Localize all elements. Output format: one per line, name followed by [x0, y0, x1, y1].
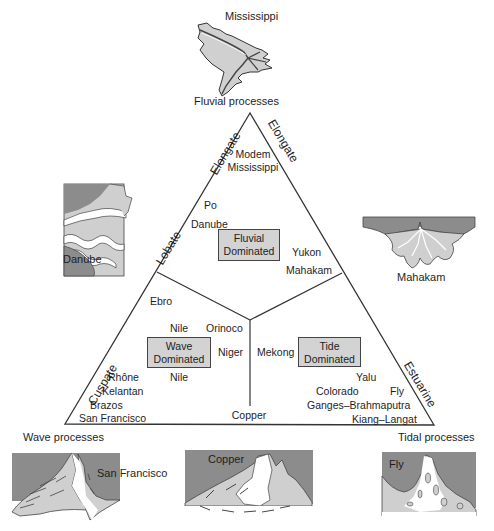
delta-label-modem: Modem — [235, 148, 270, 160]
map-label-mississippi: Mississippi — [225, 10, 278, 22]
delta-label-mahakam: Mahakam — [286, 264, 332, 276]
delta-label-yukon: Yukon — [292, 246, 321, 258]
region-label-fluvial-line2: Dominated — [219, 245, 279, 258]
region-label-tide-line2: Dominated — [299, 353, 360, 366]
delta-label-orinoco: Orinoco — [206, 322, 243, 334]
delta-label-san-francisco: San Francisco — [79, 412, 146, 424]
delta-label-mississippi: Mississippi — [228, 161, 279, 173]
mahakam-delta-map — [363, 217, 475, 268]
ternary-triangle — [0, 0, 494, 531]
delta-label-po: Po — [204, 199, 217, 211]
mississippi-delta-map — [198, 23, 272, 96]
delta-label-yalu: Yalu — [356, 371, 376, 383]
delta-label-fly: Fly — [390, 385, 404, 397]
delta-label-colorado: Colorado — [316, 385, 359, 397]
vertex-label-fluvial: Fluvial processes — [194, 95, 279, 107]
delta-label-ebro: Ebro — [150, 295, 172, 307]
delta-label-kiang-langat: Kiang–Langat — [352, 413, 417, 425]
delta-label-rhone: Rhône — [108, 371, 139, 383]
region-box-wave-dominated: Wave Dominated — [147, 337, 211, 368]
delta-label-danube: Danube — [191, 218, 228, 230]
region-box-tide-dominated: Tide Dominated — [298, 337, 361, 367]
copper-delta-map — [185, 450, 313, 520]
map-label-danube: Danube — [63, 253, 102, 265]
delta-label-copper: Copper — [232, 409, 266, 421]
delta-classification-diagram: Mississippi Danube Mahakam San Francisco… — [0, 0, 494, 531]
divider-fluvial-tide — [250, 273, 342, 320]
region-label-fluvial-line1: Fluvial — [219, 232, 279, 245]
delta-label-brazos: Brazos — [90, 399, 123, 411]
vertex-label-wave: Wave processes — [23, 431, 104, 443]
map-label-san-francisco: San Francisco — [97, 467, 167, 479]
delta-label-ganges-brahmaputra: Ganges–Brahmaputra — [307, 399, 410, 411]
region-label-tide-line1: Tide — [299, 340, 360, 353]
delta-label-kelantan: Kelantan — [102, 385, 143, 397]
map-label-fly: Fly — [389, 458, 404, 470]
delta-label-niger: Niger — [218, 346, 243, 358]
region-box-fluvial-dominated: Fluvial Dominated — [218, 229, 280, 261]
delta-label-nile-lower: Nile — [170, 371, 188, 383]
delta-label-nile-upper: Nile — [170, 322, 188, 334]
map-label-mahakam: Mahakam — [397, 271, 445, 283]
region-label-wave-line1: Wave — [148, 340, 210, 353]
map-label-copper: Copper — [208, 453, 244, 465]
san-francisco-delta-map — [12, 453, 120, 520]
region-label-wave-line2: Dominated — [148, 353, 210, 366]
delta-label-mekong: Mekong — [257, 346, 294, 358]
vertex-label-tidal: Tidal processes — [398, 431, 475, 443]
